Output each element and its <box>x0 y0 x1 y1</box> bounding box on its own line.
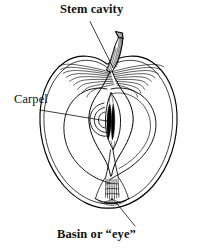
label-carpel: Carpel <box>14 93 48 106</box>
label-stem-cavity: Stem cavity <box>60 3 123 16</box>
label-basin-or-eye: Basin or “eye” <box>57 228 136 241</box>
apple-cross-section-diagram <box>0 0 217 250</box>
